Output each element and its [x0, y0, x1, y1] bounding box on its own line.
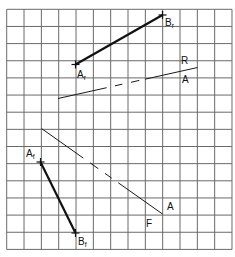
label-a-top: A — [182, 74, 189, 85]
label-ar: Ar — [77, 69, 87, 81]
label-br: Br — [165, 17, 175, 29]
line-ra-dash-2 — [131, 80, 139, 82]
label-f: F — [146, 218, 152, 229]
label-bf-sub: f — [85, 241, 87, 248]
diagram-canvas: R A A F Ar Br Af Bf — [0, 0, 235, 257]
label-br-sub: r — [172, 22, 175, 29]
label-a-bottom: A — [167, 201, 174, 212]
line-fa-solid-left — [42, 129, 84, 159]
label-r: R — [181, 55, 188, 66]
label-af-sub: f — [33, 153, 35, 160]
line-ra-solid-left — [58, 88, 107, 99]
segment-ar-br — [76, 15, 163, 65]
label-bf: Bf — [78, 236, 87, 248]
label-af: Af — [26, 148, 35, 160]
line-ra-dash-1 — [115, 84, 122, 86]
line-ar-br: Ar Br — [72, 11, 175, 81]
line-fa: A F — [42, 129, 175, 230]
grid — [7, 9, 232, 249]
